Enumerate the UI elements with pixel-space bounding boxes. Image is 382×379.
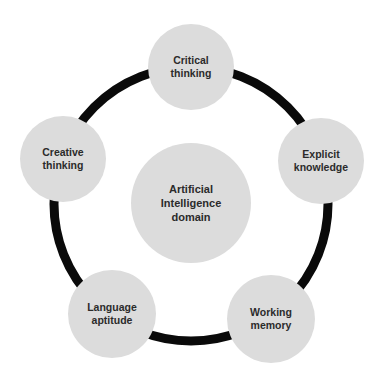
node-label-line-2: thinking [43,159,84,173]
node-label-line-2: thinking [171,67,212,81]
center-label-line-1: Artificial [169,182,213,196]
ai-domain-cycle-diagram: Artificial Intelligence domain Critical … [0,0,382,379]
node-label-line-2: memory [251,319,292,333]
center-label-line-3: domain [171,210,210,224]
center-label-line-2: Intelligence [161,196,222,210]
node-label-line-2: aptitude [92,314,133,328]
center-node-ai-domain: Artificial Intelligence domain [131,143,251,263]
node-explicit-knowledge: Explicit knowledge [278,118,364,204]
node-creative-thinking: Creative thinking [20,116,106,202]
node-label-line-1: Explicit [302,148,339,162]
node-working-memory: Working memory [227,275,315,363]
node-label-line-1: Working [250,306,292,320]
node-language-aptitude: Language aptitude [68,270,156,358]
node-critical-thinking: Critical thinking [148,24,234,110]
node-label-line-1: Critical [173,54,209,68]
node-label-line-2: knowledge [294,161,348,175]
node-label-line-1: Creative [42,146,83,160]
node-label-line-1: Language [87,301,137,315]
